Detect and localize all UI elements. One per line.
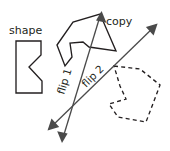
- flip-1-label: flip 1: [54, 67, 73, 96]
- flip-2-label: flip 2: [79, 62, 106, 89]
- dashed-image-polygon: [109, 66, 160, 122]
- flip-diagram-canvas: shape copy flip 1 flip 2: [0, 0, 170, 151]
- original-shape-polygon: [16, 41, 42, 93]
- flip-1-arrow-head-bottom: [57, 131, 67, 143]
- diagram-svg: shape copy flip 1 flip 2: [0, 0, 170, 151]
- flip-1-arrow-head-top: [96, 11, 106, 23]
- copy-label: copy: [106, 15, 133, 28]
- shape-label: shape: [9, 24, 42, 37]
